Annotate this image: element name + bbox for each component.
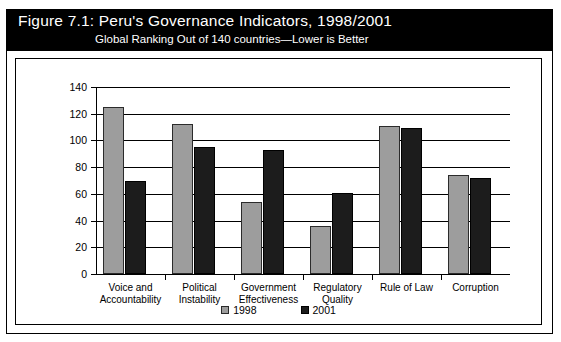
- y-axis-label: 100: [69, 134, 87, 146]
- x-axis-tick: [165, 275, 166, 280]
- x-axis-category-label: GovernmentEffectiveness: [234, 282, 303, 305]
- legend-item-2001[interactable]: 2001: [301, 304, 336, 316]
- y-axis-tick: [91, 274, 96, 275]
- plot-frame: 020406080100120140 Voice andAccountabili…: [15, 58, 542, 325]
- x-axis-tick: [441, 275, 442, 280]
- category-label-line: Corruption: [441, 282, 510, 294]
- y-axis-label: 60: [75, 188, 87, 200]
- category-label-line: Political: [165, 282, 234, 294]
- chart-axes: 020406080100120140 Voice andAccountabili…: [96, 87, 510, 275]
- category-label-line: Government: [234, 282, 303, 294]
- bar-2001-regulatory-quality: [332, 193, 353, 274]
- y-axis-label: 80: [75, 161, 87, 173]
- bar-2001-corruption: [470, 178, 491, 274]
- x-axis-category-label: Rule of Law: [372, 282, 441, 294]
- bar-1998-rule-of-law: [379, 126, 400, 274]
- bar-2001-government-effectiveness: [263, 150, 284, 274]
- legend-swatch-2001: [301, 306, 309, 314]
- x-axis-tick: [234, 275, 235, 280]
- category-label-line: Regulatory: [303, 282, 372, 294]
- legend-label: 2001: [313, 304, 336, 316]
- bar-1998-regulatory-quality: [310, 226, 331, 274]
- bar-2001-voice-and-accountability: [125, 181, 146, 275]
- bar-1998-corruption: [448, 175, 469, 274]
- chart-legend: 19982001: [16, 304, 541, 316]
- figure-title-band: Figure 7.1: Peru's Governance Indicators…: [7, 10, 552, 51]
- y-axis-label: 140: [69, 81, 87, 93]
- bar-group: [234, 87, 303, 274]
- x-axis-category-label: RegulatoryQuality: [303, 282, 372, 305]
- bar-2001-rule-of-law: [401, 128, 422, 274]
- figure-subtitle: Global Ranking Out of 140 countries—Lowe…: [95, 33, 369, 45]
- y-axis-label: 0: [81, 268, 87, 280]
- bar-group: [441, 87, 510, 274]
- category-label-line: Rule of Law: [372, 282, 441, 294]
- y-axis-label: 40: [75, 215, 87, 227]
- x-axis-category-label: Voice andAccountability: [96, 282, 165, 305]
- bar-group: [303, 87, 372, 274]
- bar-group: [165, 87, 234, 274]
- legend-swatch-1998: [221, 306, 229, 314]
- x-axis-category-label: Corruption: [441, 282, 510, 294]
- bar-1998-government-effectiveness: [241, 202, 262, 274]
- x-axis-tick: [303, 275, 304, 280]
- figure-container: Figure 7.1: Peru's Governance Indicators…: [6, 9, 553, 334]
- x-axis-category-label: PoliticalInstability: [165, 282, 234, 305]
- figure-title: Figure 7.1: Peru's Governance Indicators…: [18, 12, 392, 30]
- x-axis-tick: [372, 275, 373, 280]
- bar-1998-political-instability: [172, 124, 193, 274]
- y-axis-label: 120: [69, 108, 87, 120]
- figure-title-text: Figure 7.1: Peru's Governance Indicators…: [18, 12, 392, 29]
- y-axis-label: 20: [75, 241, 87, 253]
- legend-item-1998[interactable]: 1998: [221, 304, 256, 316]
- bar-1998-voice-and-accountability: [103, 107, 124, 274]
- category-label-line: Voice and: [96, 282, 165, 294]
- legend-label: 1998: [233, 304, 256, 316]
- bar-2001-political-instability: [194, 147, 215, 274]
- bar-group: [96, 87, 165, 274]
- bar-group: [372, 87, 441, 274]
